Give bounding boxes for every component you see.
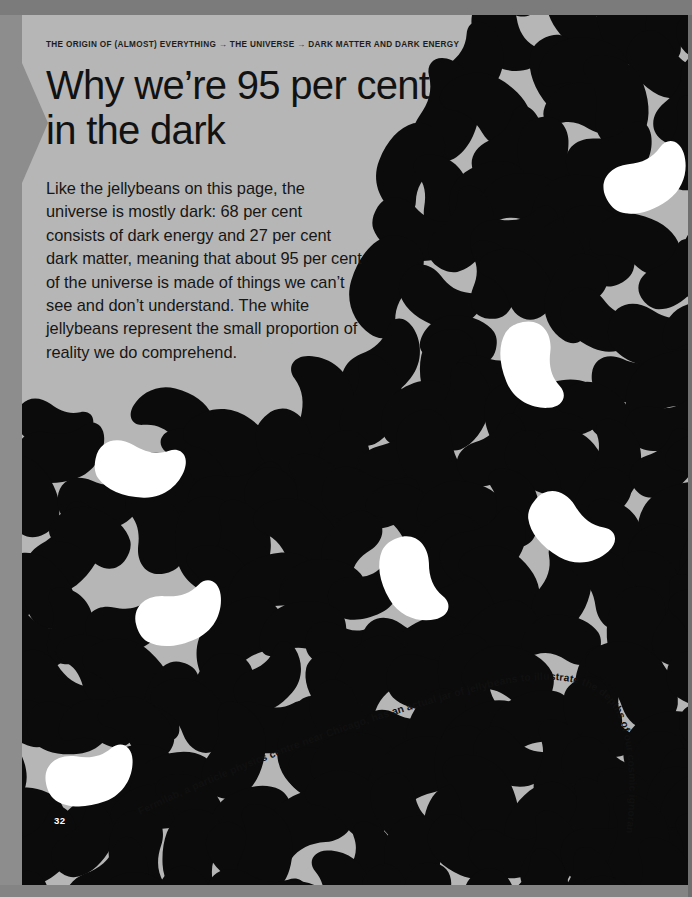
magazine-spread: THE ORIGIN OF (ALMOST) EVERYTHING → THE … xyxy=(0,0,692,897)
page-title: Why we’re 95 per cent in the dark xyxy=(46,63,446,153)
jellybean-dark xyxy=(662,301,688,350)
page-top-margin xyxy=(0,0,692,15)
page-right-margin xyxy=(688,15,692,897)
article-text-column: THE ORIGIN OF (ALMOST) EVERYTHING → THE … xyxy=(46,40,446,364)
page-bottom-margin xyxy=(0,885,692,897)
chevron-left-icon xyxy=(22,63,52,183)
standfirst-paragraph: Like the jellybeans on this page, the un… xyxy=(46,177,364,364)
page-left-margin xyxy=(0,15,22,897)
breadcrumb[interactable]: THE ORIGIN OF (ALMOST) EVERYTHING → THE … xyxy=(46,40,446,49)
page-number: 32 xyxy=(54,815,65,826)
page-sheet: THE ORIGIN OF (ALMOST) EVERYTHING → THE … xyxy=(22,15,688,885)
